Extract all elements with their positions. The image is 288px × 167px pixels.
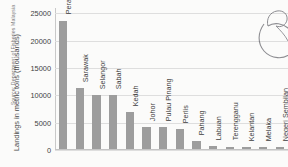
y-axis-tick-label: 15000: [11, 64, 51, 73]
bar[interactable]: [242, 147, 250, 149]
bar-category-label: Johor: [148, 103, 155, 121]
bar[interactable]: [276, 147, 284, 149]
bar-column[interactable]: Melaka: [259, 147, 267, 149]
bar-column[interactable]: Pulau Pinang: [159, 127, 167, 149]
bar-category-label: Labuan: [215, 116, 222, 140]
chart-screenshot: Source: Department of Fisheries Malaysia…: [0, 0, 288, 167]
bar[interactable]: [76, 88, 84, 149]
bar-category-label: Terengganu: [232, 103, 239, 141]
bar[interactable]: [259, 147, 267, 149]
bar-category-label: Selangor: [98, 60, 105, 89]
bar-category-label: Perak: [65, 0, 72, 15]
bar[interactable]: [126, 112, 134, 149]
bar-column[interactable]: Labuan: [209, 146, 217, 149]
y-axis-tick-label: 10000: [11, 91, 51, 100]
bar-column[interactable]: Selangor: [92, 95, 100, 149]
bar-category-label: Kedah: [132, 85, 139, 106]
gridline: [55, 150, 288, 151]
bar-column[interactable]: Kelantan: [242, 147, 250, 149]
bar-column[interactable]: Pahang: [192, 141, 200, 149]
bar[interactable]: [59, 21, 67, 149]
bar-category-label: Pulau Pinang: [165, 78, 172, 121]
bar-column[interactable]: Negeri Sembilan: [276, 147, 284, 149]
gridline: [55, 68, 288, 69]
bar-column[interactable]: Johor: [142, 127, 150, 149]
y-axis-tick-label: 5000: [11, 118, 51, 127]
gridline: [55, 41, 288, 42]
gridline: [55, 13, 288, 14]
bar[interactable]: [92, 95, 100, 149]
bar-category-label: Perlis: [182, 105, 189, 123]
bar[interactable]: [159, 127, 167, 149]
bar-category-label: Pahang: [198, 110, 205, 135]
bar-category-label: Melaka: [265, 118, 272, 141]
bar-column[interactable]: Kedah: [126, 112, 134, 149]
bar-category-label: Sabah: [115, 68, 122, 89]
bar[interactable]: [109, 95, 117, 149]
bar[interactable]: [209, 146, 217, 149]
bar-column[interactable]: Terengganu: [226, 147, 234, 149]
bar-category-label: Kelantan: [248, 112, 255, 140]
bar-column[interactable]: Perak: [59, 21, 67, 149]
y-axis-tick-label: 0: [11, 146, 51, 155]
bar[interactable]: [176, 129, 184, 149]
plot-frame: PerakSarawakSelangorSabahKedahJohorPulau…: [55, 8, 288, 150]
bar-column[interactable]: Sarawak: [76, 88, 84, 149]
bar[interactable]: [142, 127, 150, 149]
bar[interactable]: [226, 147, 234, 149]
bar[interactable]: [192, 141, 200, 149]
plot-area: PerakSarawakSelangorSabahKedahJohorPulau…: [55, 8, 288, 150]
bar-category-label: Negeri Sembilan: [281, 88, 288, 141]
y-axis-tick-label: 20000: [11, 36, 51, 45]
y-axis-tick-label: 25000: [11, 9, 51, 18]
bar-column[interactable]: Perlis: [176, 129, 184, 149]
bar-column[interactable]: Sabah: [109, 95, 117, 149]
bar-category-label: Sarawak: [82, 54, 89, 82]
